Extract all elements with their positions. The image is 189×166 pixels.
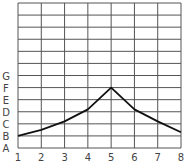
y-tick-label: E (3, 95, 9, 106)
y-tick-label: A (3, 143, 10, 154)
x-tick-label: 8 (178, 152, 184, 163)
y-tick-label: B (3, 131, 10, 142)
x-tick-label: 7 (155, 152, 161, 163)
line-chart: ABCDEFG12345678 (0, 0, 189, 166)
y-tick-label: F (3, 83, 9, 94)
y-tick-label: D (2, 107, 10, 118)
x-tick-label: 3 (61, 152, 67, 163)
x-tick-label: 4 (85, 152, 91, 163)
x-tick-label: 5 (108, 152, 114, 163)
y-tick-label: C (3, 119, 10, 130)
x-tick-label: 6 (131, 152, 137, 163)
x-tick-label: 1 (15, 152, 21, 163)
x-tick-label: 2 (38, 152, 44, 163)
y-tick-label: G (2, 71, 10, 82)
